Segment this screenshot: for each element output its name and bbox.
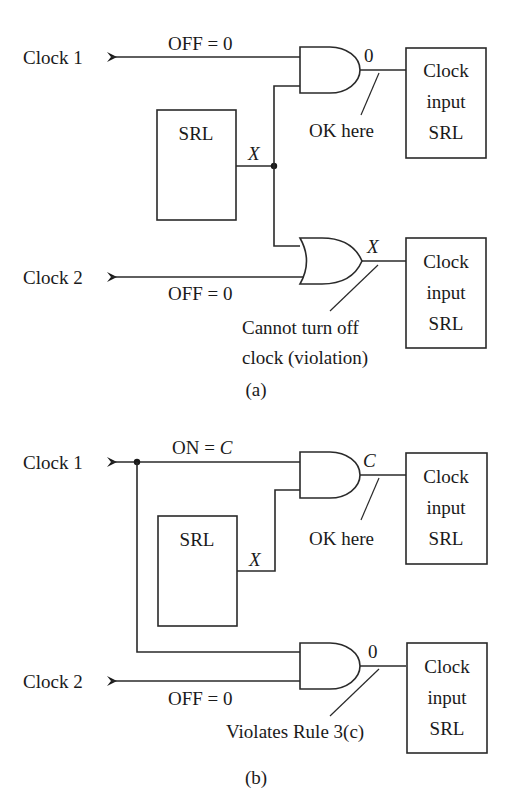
box-text: input bbox=[426, 91, 466, 112]
caption-a: (a) bbox=[245, 379, 266, 401]
box-text: SRL bbox=[429, 313, 464, 334]
x-branch-wire-a bbox=[274, 86, 300, 246]
clock2-label-a: Clock 2 bbox=[23, 267, 83, 288]
clock2-label-b: Clock 2 bbox=[23, 671, 83, 692]
or-output-value-a: X bbox=[366, 236, 380, 257]
box-text: Clock bbox=[424, 656, 470, 677]
note-violation-line2-a: clock (violation) bbox=[242, 347, 368, 369]
box-text: input bbox=[426, 282, 466, 303]
panel-b: Clock 1 ON = C C OK here Clock input SRL… bbox=[23, 437, 487, 789]
clock1-label-a: Clock 1 bbox=[23, 47, 83, 68]
note-leader-b-top bbox=[361, 478, 379, 520]
and-gate-top-b bbox=[300, 452, 360, 498]
caption-b: (b) bbox=[245, 767, 267, 789]
box-text: input bbox=[427, 687, 467, 708]
box-text: SRL bbox=[429, 122, 464, 143]
srl-output-wire-b bbox=[237, 490, 300, 571]
note-ok-here-a: OK here bbox=[309, 120, 374, 141]
clock1-wire-label-a: OFF = 0 bbox=[168, 33, 233, 54]
panel-a: Clock 1 OFF = 0 0 OK here Clock input SR… bbox=[23, 33, 486, 401]
box-text: Clock bbox=[423, 251, 469, 272]
or-gate-bottom-a bbox=[300, 238, 362, 284]
and-gate-top-a bbox=[300, 47, 360, 93]
clock2-wire-label-a: OFF = 0 bbox=[168, 283, 233, 304]
note-violation-line1-a: Cannot turn off bbox=[242, 317, 359, 338]
box-text: SRL bbox=[430, 718, 465, 739]
clock1-label-b: Clock 1 bbox=[23, 452, 83, 473]
box-text: Clock bbox=[423, 60, 469, 81]
box-text: SRL bbox=[429, 528, 464, 549]
srl-output-label-a: X bbox=[247, 143, 261, 164]
and-output-value-a: 0 bbox=[364, 45, 374, 66]
and-output-value-b: C bbox=[363, 450, 376, 471]
box-text: input bbox=[426, 497, 466, 518]
note-ok-here-b: OK here bbox=[309, 528, 374, 549]
clock-gating-diagram: Clock 1 OFF = 0 0 OK here Clock input SR… bbox=[0, 0, 517, 811]
note-leader-a-top bbox=[361, 73, 379, 115]
box-text: Clock bbox=[423, 466, 469, 487]
clock1-wire-label-b: ON = C bbox=[172, 437, 233, 458]
clock2-wire-label-b: OFF = 0 bbox=[168, 688, 233, 709]
srl-label-b: SRL bbox=[180, 529, 215, 550]
and-bottom-output-value-b: 0 bbox=[368, 641, 378, 662]
srl-label-a: SRL bbox=[179, 123, 214, 144]
and-gate-bottom-b bbox=[300, 643, 360, 689]
srl-output-label-b: X bbox=[248, 549, 262, 570]
note-violates-rule-b: Violates Rule 3(c) bbox=[226, 721, 364, 743]
